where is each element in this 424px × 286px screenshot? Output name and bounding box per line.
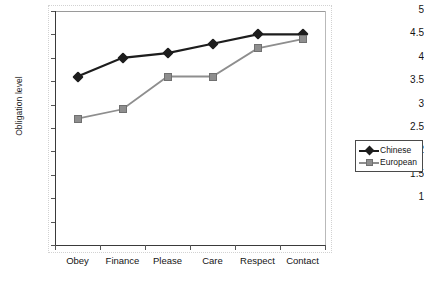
legend-marker-european (366, 159, 373, 166)
series-line-chinese (78, 34, 303, 76)
legend-marker-chinese (365, 145, 375, 155)
line-chart: Obligation level 11.522.533.544.55 ObeyF… (0, 0, 424, 286)
legend-label-european: European (380, 157, 417, 167)
legend-swatch-chinese (358, 144, 380, 156)
legend-label-chinese: Chinese (380, 145, 411, 155)
legend-swatch-european (358, 156, 380, 168)
legend-item-european[interactable]: European (358, 156, 420, 168)
series-line-european (78, 39, 303, 119)
legend: Chinese European (355, 140, 423, 172)
legend-item-chinese[interactable]: Chinese (358, 144, 420, 156)
